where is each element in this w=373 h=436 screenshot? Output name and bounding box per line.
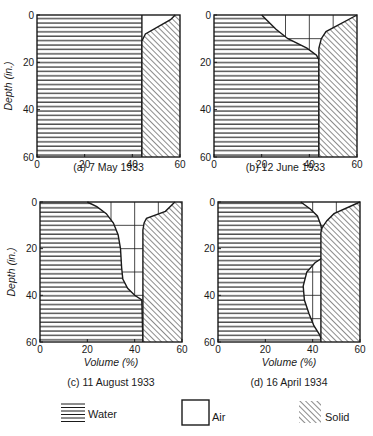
legend-label-water: Water: [88, 408, 117, 420]
panel-caption: (d) 16 April 1934: [250, 376, 327, 388]
y-tick-label: 40: [26, 290, 38, 301]
x-tick-label: 60: [174, 159, 186, 170]
panel-caption: (a) 7 May 1933: [73, 161, 144, 173]
y-tick-label: 0: [31, 197, 37, 208]
chart-panel-b: 02040600204060(b) 12 June 1933: [200, 10, 363, 174]
x-tick-label: 60: [354, 344, 366, 355]
legend-label-solid: Solid: [325, 411, 349, 423]
x-tick-label: 60: [351, 159, 363, 170]
legend-item-solid: Solid: [299, 401, 349, 423]
y-tick-label: 60: [26, 337, 38, 348]
solid-region: [143, 202, 182, 342]
solid-region: [321, 202, 360, 342]
y-tick-label: 40: [204, 290, 216, 301]
chart-panel-c: 02040600204060Depth (in.)Volume (%)(c) 1…: [5, 197, 188, 389]
y-tick-label: 0: [205, 10, 211, 21]
chart-panel-d: 02040600204060Volume (%)(d) 16 April 193…: [204, 197, 366, 389]
legend-label-air: Air: [212, 411, 226, 423]
air-box-swatch: [182, 400, 209, 425]
y-axis-label: Depth (in.): [2, 61, 14, 110]
y-tick-label: 0: [28, 10, 34, 21]
legend-item-water: Water: [61, 404, 117, 422]
y-tick-label: 20: [26, 243, 38, 254]
x-tick-label: 60: [176, 344, 188, 355]
x-tick-label: 0: [211, 159, 217, 170]
y-tick-label: 60: [200, 152, 212, 163]
figure: 02040600204060Depth (in.)(a) 7 May 1933 …: [0, 0, 373, 436]
y-tick-label: 40: [23, 104, 35, 115]
panel-caption: (c) 11 August 1933: [67, 376, 155, 388]
solid-region: [142, 15, 180, 157]
x-tick-label: 40: [129, 344, 141, 355]
y-axis-label: Depth (in.): [5, 247, 17, 296]
y-tick-label: 40: [200, 104, 212, 115]
x-tick-label: 20: [82, 344, 94, 355]
y-tick-label: 0: [209, 197, 215, 208]
x-tick-label: 0: [215, 344, 221, 355]
legend: Water Air Solid: [61, 400, 349, 425]
chart-panel-a: 02040600204060Depth (in.)(a) 7 May 1933: [2, 10, 186, 174]
water-pattern-swatch: [61, 404, 85, 422]
y-tick-label: 20: [200, 57, 212, 68]
x-tick-label: 20: [260, 344, 272, 355]
y-tick-label: 60: [204, 337, 216, 348]
x-tick-label: 0: [34, 159, 40, 170]
y-tick-label: 60: [23, 152, 35, 163]
x-axis-label: Volume (%): [262, 356, 316, 368]
solid-region: [319, 15, 357, 157]
panel-caption: (b) 12 June 1933: [246, 161, 326, 173]
x-tick-label: 40: [307, 344, 319, 355]
y-tick-label: 20: [204, 243, 216, 254]
water-region: [37, 15, 142, 157]
x-tick-label: 0: [37, 344, 43, 355]
legend-item-air: Air: [182, 400, 226, 425]
x-axis-label: Volume (%): [84, 356, 138, 368]
y-tick-label: 20: [23, 57, 35, 68]
solid-hatch-swatch: [299, 401, 321, 423]
